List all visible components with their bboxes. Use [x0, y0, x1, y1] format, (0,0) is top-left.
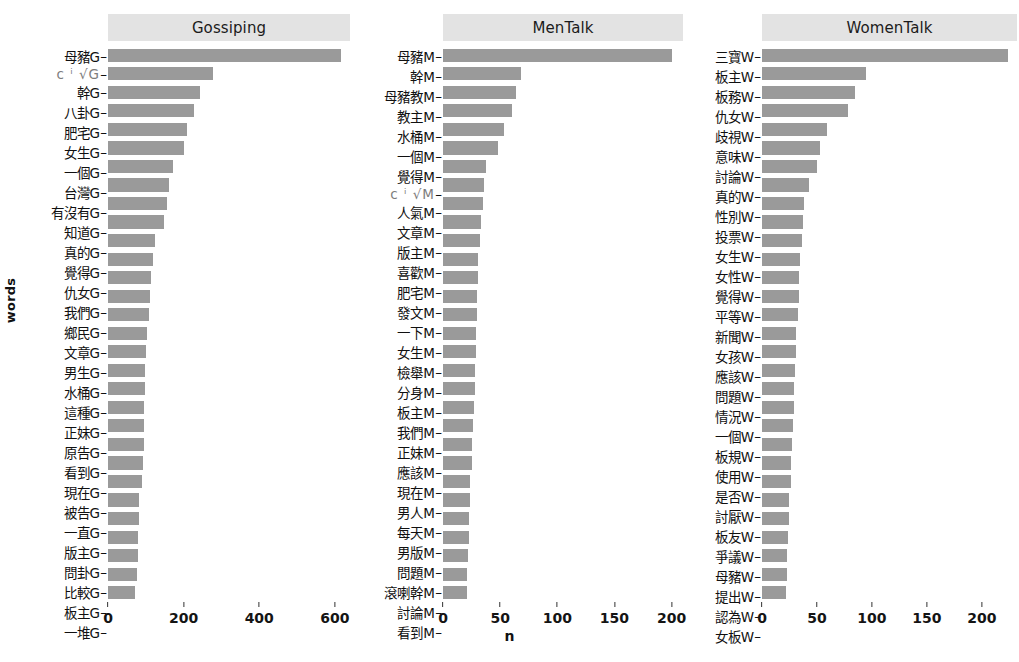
- y-tick-mark: –: [435, 524, 442, 540]
- bar-row: [108, 231, 350, 250]
- y-tick-label-text: 討論M: [397, 602, 435, 622]
- x-tick-label: 200: [967, 610, 996, 626]
- bar: [762, 345, 796, 358]
- bar: [108, 197, 167, 210]
- x-tick-mark: [614, 602, 615, 607]
- y-tick-label-text: 討厭W: [715, 506, 754, 526]
- bar: [762, 49, 1008, 62]
- bar-row: [443, 509, 683, 528]
- y-tick-mark: –: [435, 68, 442, 84]
- x-tick: 50: [490, 602, 509, 626]
- bar: [762, 419, 793, 432]
- bar: [108, 438, 144, 451]
- y-tick-label: 八卦G–: [22, 102, 108, 122]
- bar-row: [762, 343, 1017, 362]
- bar: [762, 253, 800, 266]
- y-tick-mark: –: [100, 244, 107, 260]
- y-tick-label-text: 問題M: [397, 562, 435, 582]
- y-tick-label: 原告G–: [22, 442, 108, 462]
- bar-row: [443, 194, 683, 213]
- x-tick: 0: [757, 602, 767, 626]
- y-tick-mark: –: [754, 308, 761, 324]
- y-tick-label-text: 人氣M: [397, 202, 435, 222]
- x-tick-label: 200: [169, 610, 198, 626]
- y-tick-label: 仇女G–: [22, 282, 108, 302]
- y-tick-label: 使用W–: [688, 466, 762, 486]
- bar: [108, 456, 143, 469]
- y-tick-label-text: 覺得W: [715, 286, 754, 306]
- y-tick-mark: –: [100, 204, 107, 220]
- y-tick-label: 爭議W–: [688, 546, 762, 566]
- bar-row: [762, 417, 1017, 436]
- y-tick-label-text: 肥宅M: [397, 282, 435, 302]
- bar-row: [108, 268, 350, 287]
- y-tick-mark: –: [435, 224, 442, 240]
- x-tick-label: 100: [543, 610, 572, 626]
- y-tick-label: 現在M–: [355, 482, 443, 502]
- facet-title: Gossiping: [192, 19, 266, 37]
- y-tick-label: c ⁱ √M–: [355, 186, 443, 202]
- bar-row: [443, 454, 683, 473]
- y-tick-label-text: 教主M: [397, 106, 435, 126]
- bar-row: [443, 491, 683, 510]
- bar-row: [762, 176, 1017, 195]
- bar: [108, 586, 135, 599]
- y-tick-label: 版主G–: [22, 542, 108, 562]
- bar: [443, 586, 467, 599]
- y-tick-label-text: 女生G: [64, 142, 100, 162]
- bar: [443, 438, 472, 451]
- y-tick-label: 人氣M–: [355, 202, 443, 222]
- bar-row: [108, 139, 350, 158]
- bar-row: [108, 435, 350, 454]
- bar-row: [108, 305, 350, 324]
- y-tick-label-text: 仇女W: [715, 106, 754, 126]
- bar: [762, 549, 787, 562]
- y-tick-mark: –: [754, 428, 761, 444]
- y-tick-mark: –: [754, 388, 761, 404]
- y-tick-label: 板主W–: [688, 66, 762, 86]
- bar-row: [108, 528, 350, 547]
- bar: [443, 419, 473, 432]
- y-tick-mark: –: [754, 368, 761, 384]
- x-tick: 0: [438, 602, 448, 626]
- y-tick-label-text: 板主W: [715, 66, 754, 86]
- y-tick-mark: –: [435, 168, 442, 184]
- y-tick-label-text: 意味W: [715, 146, 754, 166]
- y-tick-mark: –: [754, 228, 761, 244]
- bar-row: [443, 120, 683, 139]
- y-tick-mark: –: [754, 288, 761, 304]
- bar-rows-womentalk: [762, 46, 1017, 602]
- y-tick-label: 檢舉M–: [355, 362, 443, 382]
- bar-row: [443, 139, 683, 158]
- bar: [108, 327, 147, 340]
- y-tick-label-text: 問卦G: [64, 562, 100, 582]
- bar: [443, 549, 468, 562]
- x-tick: 50: [807, 602, 826, 626]
- bar: [762, 475, 791, 488]
- bar: [762, 141, 820, 154]
- y-tick-label-text: 版主G: [64, 542, 100, 562]
- facet-strip-mentalk: MenTalk: [443, 14, 683, 41]
- bar: [443, 364, 475, 377]
- x-tick: 150: [600, 602, 629, 626]
- y-tick-mark: –: [100, 424, 107, 440]
- y-tick-mark: –: [754, 528, 761, 544]
- bar-row: [443, 268, 683, 287]
- y-tick-mark: –: [100, 84, 107, 100]
- y-tick-label: 文章G–: [22, 342, 108, 362]
- y-tick-label-text: 投票W: [715, 226, 754, 246]
- x-tick: 150: [912, 602, 941, 626]
- y-tick-label: 這種G–: [22, 402, 108, 422]
- y-tick-label-text: 板務W: [715, 86, 754, 106]
- bar-row: [108, 546, 350, 565]
- y-tick-mark: –: [100, 484, 107, 500]
- y-tick-label-text: 女生W: [715, 246, 754, 266]
- bar-row: [108, 454, 350, 473]
- bar-row: [443, 361, 683, 380]
- y-tick-label-text: 幹M: [410, 66, 435, 86]
- y-tick-label: 情況W–: [688, 406, 762, 426]
- bar: [108, 160, 173, 173]
- bar-row: [762, 398, 1017, 417]
- bar: [443, 290, 477, 303]
- bar: [443, 568, 467, 581]
